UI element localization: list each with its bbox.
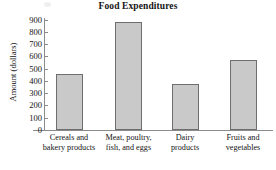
y-axis-tick-mark xyxy=(44,20,48,21)
y-axis-line xyxy=(44,18,45,131)
y-axis-tick: 900 xyxy=(0,20,48,21)
y-axis-tick-mark xyxy=(44,56,48,57)
x-axis-category-label-line: Fruits and xyxy=(208,133,276,143)
y-axis-tick-label: 600 xyxy=(16,52,42,61)
y-axis-tick: 400 xyxy=(0,81,48,82)
y-axis-tick-mark xyxy=(44,32,48,33)
x-axis-category-label: Fruits andvegetables xyxy=(208,133,276,153)
y-axis-tick: 0 xyxy=(0,130,48,131)
y-axis-tick-mark xyxy=(44,105,48,106)
bar xyxy=(115,22,142,130)
y-axis-tick-mark xyxy=(44,81,48,82)
y-axis-tick-mark xyxy=(44,44,48,45)
bar-chart-figure: Food Expenditures Amount (dollars) 01002… xyxy=(0,0,276,170)
y-axis-tick-label: 400 xyxy=(16,77,42,86)
y-axis-tick-mark xyxy=(44,69,48,70)
y-axis-tick-label: 100 xyxy=(16,114,42,123)
y-axis-tick: 200 xyxy=(0,105,48,106)
x-axis-line xyxy=(33,130,273,131)
bar xyxy=(172,84,199,130)
y-axis-tick-mark xyxy=(44,130,48,131)
y-axis-tick-label: 800 xyxy=(16,28,42,37)
y-axis-tick: 300 xyxy=(0,93,48,94)
plot-area: Amount (dollars) 01002003004005006007008… xyxy=(0,0,276,170)
y-axis-tick: 100 xyxy=(0,118,48,119)
y-axis-tick-label: 200 xyxy=(16,101,42,110)
y-axis-tick-mark xyxy=(44,93,48,94)
y-axis-tick: 800 xyxy=(0,32,48,33)
y-axis-tick-label: 300 xyxy=(16,89,42,98)
y-axis-tick: 600 xyxy=(0,56,48,57)
bar xyxy=(56,74,83,130)
y-axis-tick-label: 900 xyxy=(16,16,42,25)
y-axis-tick-label: 500 xyxy=(16,65,42,74)
y-axis-tick-mark xyxy=(44,118,48,119)
y-axis-tick-label: 700 xyxy=(16,40,42,49)
y-axis-tick: 500 xyxy=(0,69,48,70)
y-axis-tick: 700 xyxy=(0,44,48,45)
x-axis-category-label-line: vegetables xyxy=(208,143,276,153)
bar xyxy=(230,60,257,130)
